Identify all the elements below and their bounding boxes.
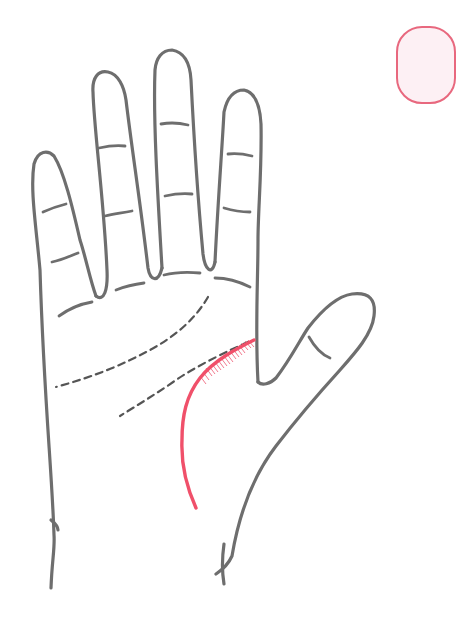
index-finger-outline [215,90,261,382]
heart-line-dashed [56,297,208,387]
thumb-crease [309,337,330,358]
life-line-hatch [200,340,254,384]
middle-finger-outline [155,50,215,270]
corner-badge [396,26,456,104]
little-finger-outline [33,152,96,588]
wrist-right-line [223,544,225,584]
ring-finger-outline [93,72,162,298]
thumb-outline [216,294,374,574]
